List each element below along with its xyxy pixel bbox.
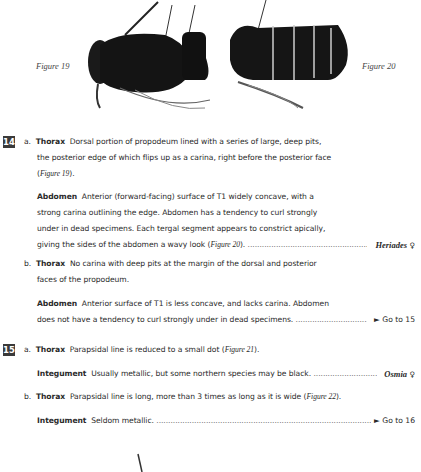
leader-dots: ........................................… [313, 369, 377, 378]
couplet-14a-abdomen-line1: Abdomen Anterior (forward-facing) surfac… [37, 189, 314, 205]
couplet-number-15: 15 [3, 344, 15, 356]
couplet-number-14: 14 [3, 136, 15, 148]
couplet-14a-thorax-line3: (Figure 19). [37, 166, 75, 182]
figure-21-ref[interactable]: Figure 21 [225, 345, 254, 354]
female-symbol: ♀ [409, 370, 415, 379]
genus-osmia: Osmia [384, 369, 407, 379]
couplet-15a-integument: Integument Usually metallic, but some no… [37, 366, 377, 382]
leader-dots: ........................................… [156, 416, 382, 425]
figure-20-caption: Figure 20 [362, 61, 395, 71]
leader-dots: ........................................… [296, 315, 367, 324]
go-to-16-link[interactable]: ► Go to 16 [371, 413, 415, 429]
couplet-14a-result[interactable]: Heriades ♀ [372, 237, 415, 254]
figure-21-image-partial [130, 452, 150, 472]
couplet-14a-abdomen-line2: strong carina outlining the edge. Abdome… [37, 205, 317, 221]
couplet-15a-result[interactable]: Osmia ♀ [381, 366, 415, 383]
go-to-15-link[interactable]: ► Go to 15 [371, 312, 415, 328]
leader-dots: ........................................… [248, 240, 367, 249]
figure-19-image [80, 0, 215, 112]
figure-22-ref[interactable]: Figure 22 [307, 392, 336, 401]
couplet-15a-thorax: a. Thorax Parapsidal line is reduced to … [24, 342, 259, 358]
couplet-14b-thorax-line1: b. Thorax No carina with deep pits at th… [24, 256, 317, 272]
couplet-14b-thorax-line2: faces of the propodeum. [37, 272, 129, 288]
couplet-15b-integument: Integument Seldom metallic. ............… [37, 413, 382, 429]
genus-heriades: Heriades [375, 240, 407, 250]
couplet-14b-abdomen-line2: does not have a tendency to curl strongl… [37, 312, 367, 328]
couplet-15b-thorax: b. Thorax Parapsidal line is long, more … [24, 389, 341, 405]
figure-19-ref[interactable]: Figure 19 [40, 169, 69, 178]
figure-20-ref[interactable]: Figure 20 [211, 240, 240, 249]
couplet-14a-abdomen-line4: giving the sides of the abdomen a wavy l… [37, 237, 367, 253]
couplet-14b-abdomen-line1: Abdomen Anterior surface of T1 is less c… [37, 296, 329, 312]
couplet-14a-abdomen-line3: under in dead specimens. Each tergal seg… [37, 221, 325, 237]
figure-19-caption: Figure 19 [36, 61, 69, 71]
couplet-14a-thorax-line1: a. Thorax Dorsal portion of propodeum li… [24, 134, 321, 150]
figure-20-image [228, 0, 353, 112]
female-symbol: ♀ [409, 241, 415, 250]
couplet-14a-thorax-line2: the posterior edge of which flips up as … [37, 150, 331, 166]
